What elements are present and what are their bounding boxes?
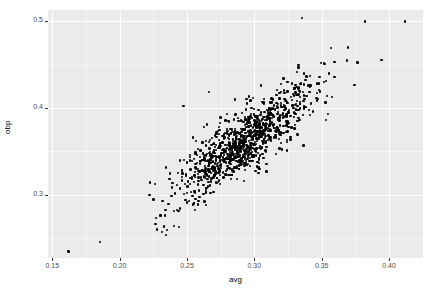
data-point <box>293 111 295 113</box>
x-tick-mark <box>254 258 255 261</box>
data-point <box>179 159 181 161</box>
data-point <box>210 177 212 179</box>
data-point <box>168 178 170 180</box>
data-point <box>230 178 232 180</box>
data-point <box>208 141 210 143</box>
data-point <box>242 142 244 144</box>
data-point <box>205 140 207 142</box>
data-point <box>165 234 167 236</box>
data-point <box>263 111 265 113</box>
data-point <box>252 126 254 128</box>
data-point <box>347 46 349 48</box>
data-point <box>189 156 191 158</box>
data-point <box>155 217 157 219</box>
data-point <box>200 179 202 181</box>
data-point <box>260 84 262 86</box>
data-point <box>286 81 288 83</box>
data-point <box>253 108 255 110</box>
x-tick-label: 0.35 <box>302 262 342 269</box>
data-point <box>356 61 358 63</box>
data-point <box>286 141 288 143</box>
data-point <box>296 133 298 135</box>
data-point <box>195 140 197 142</box>
data-point <box>179 187 181 189</box>
data-point <box>209 192 211 194</box>
data-point <box>173 210 175 212</box>
data-point <box>291 104 293 106</box>
data-point <box>240 150 242 152</box>
data-point <box>185 175 187 177</box>
data-point <box>251 136 253 138</box>
x-tick-mark <box>389 258 390 261</box>
data-point <box>302 114 304 116</box>
x-tick-mark <box>120 258 121 261</box>
data-point <box>193 181 195 183</box>
data-point <box>269 123 271 125</box>
data-point <box>325 80 327 82</box>
data-point <box>198 189 200 191</box>
data-point <box>280 83 282 85</box>
data-point <box>192 136 194 138</box>
x-tick-mark <box>52 258 53 261</box>
data-point <box>234 145 236 147</box>
data-point <box>277 103 279 105</box>
x-tick-mark <box>187 258 188 261</box>
data-point <box>196 154 198 156</box>
data-point <box>275 153 277 155</box>
data-point <box>285 115 287 117</box>
data-point <box>194 163 196 165</box>
data-point-outlier <box>364 20 366 22</box>
data-point <box>189 183 191 185</box>
data-point <box>324 101 326 103</box>
data-point <box>299 96 301 98</box>
data-point <box>219 116 221 118</box>
data-point <box>271 107 273 109</box>
data-point <box>302 144 304 146</box>
data-point <box>245 108 247 110</box>
data-point <box>214 146 216 148</box>
data-point <box>262 157 264 159</box>
data-point <box>225 161 227 163</box>
data-point <box>256 115 258 117</box>
data-point <box>281 148 283 150</box>
data-point <box>293 127 295 129</box>
data-point <box>189 168 191 170</box>
data-point <box>287 126 289 128</box>
data-point <box>280 91 282 93</box>
data-point <box>211 137 213 139</box>
data-point <box>159 214 161 216</box>
data-point <box>197 183 199 185</box>
data-point <box>222 176 224 178</box>
data-point <box>238 168 240 170</box>
data-point <box>292 107 294 109</box>
data-point <box>170 195 172 197</box>
data-point <box>209 184 211 186</box>
data-point <box>255 154 257 156</box>
data-point <box>214 172 216 174</box>
data-point <box>298 119 300 121</box>
data-point <box>217 130 219 132</box>
data-point <box>268 107 270 109</box>
data-point <box>235 160 237 162</box>
data-point <box>190 191 192 193</box>
data-point <box>316 92 318 94</box>
data-point <box>199 162 201 164</box>
data-point <box>230 174 232 176</box>
data-point <box>278 133 280 135</box>
data-point <box>212 166 214 168</box>
data-point <box>228 161 230 163</box>
data-point <box>191 195 193 197</box>
data-point <box>249 152 251 154</box>
data-point <box>242 155 244 157</box>
data-point <box>285 107 287 109</box>
data-point <box>161 231 163 233</box>
data-point <box>325 119 327 121</box>
data-point <box>246 102 248 104</box>
data-point <box>210 172 212 174</box>
data-point <box>212 160 214 162</box>
data-point <box>224 173 226 175</box>
data-point <box>228 134 230 136</box>
data-point <box>206 153 208 155</box>
data-point <box>243 180 245 182</box>
data-point <box>265 146 267 148</box>
